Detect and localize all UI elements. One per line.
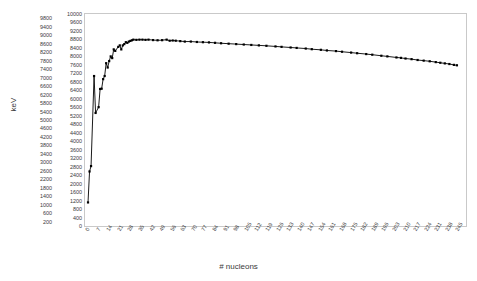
data-point [243, 43, 245, 45]
data-point [250, 44, 252, 46]
data-point [102, 78, 104, 80]
x-tick-label: 7 [95, 226, 102, 232]
data-point [258, 44, 260, 46]
data-point [380, 55, 382, 57]
data-point [417, 59, 419, 61]
data-point [87, 201, 89, 203]
data-point [98, 106, 100, 108]
data-point [190, 40, 192, 42]
data-point [202, 41, 204, 43]
data-point [453, 64, 455, 66]
data-point [175, 40, 177, 42]
data-point [235, 43, 237, 45]
y-tick-label: 4400 [70, 130, 82, 136]
y-tick-label: 2800 [70, 164, 82, 170]
data-point [214, 42, 216, 44]
data-point [395, 56, 397, 58]
data-point [386, 55, 388, 57]
data-point [400, 57, 402, 59]
data-point [119, 44, 121, 46]
data-point [280, 46, 282, 48]
data-point [305, 47, 307, 49]
data-point [220, 42, 222, 44]
data-point [208, 41, 210, 43]
y-tick-label: 7200 [70, 70, 82, 76]
data-point [356, 52, 358, 54]
data-point [90, 165, 92, 167]
y-tick-label: 8800 [70, 36, 82, 42]
data-point [108, 60, 110, 62]
y-axis-tick-labels-outer: 9800940090008600820078007400700066006200… [18, 0, 52, 281]
data-point [107, 66, 109, 68]
data-point [105, 62, 107, 64]
data-point [172, 39, 174, 41]
data-point [296, 47, 298, 49]
data-markers [87, 39, 458, 204]
y-tick-label: 400 [73, 215, 82, 221]
data-point [114, 50, 116, 52]
data-line [88, 40, 457, 203]
data-point [135, 39, 137, 41]
y-tick-label: 4800 [70, 121, 82, 127]
data-point [265, 45, 267, 47]
y-tick-label: 0 [79, 223, 82, 229]
y-tick-label: 6000 [70, 96, 82, 102]
data-point [156, 39, 158, 41]
binding-energy-curve [85, 14, 466, 226]
data-point [138, 39, 140, 41]
data-point [423, 60, 425, 62]
y-tick-label: 4000 [70, 138, 82, 144]
data-point [111, 57, 113, 59]
y-tick-label: 3600 [70, 147, 82, 153]
data-point [123, 43, 125, 45]
plot-area [84, 13, 467, 227]
x-tick-label: 0 [84, 226, 91, 232]
data-point [439, 62, 441, 64]
data-point [410, 58, 412, 60]
data-point [435, 61, 437, 63]
y-tick-label: 5200 [70, 113, 82, 119]
data-point [274, 45, 276, 47]
data-point [456, 64, 458, 66]
data-point [88, 170, 90, 172]
binding-energy-chart: keV 980094009000860082007800740070006600… [0, 0, 477, 281]
data-point [365, 53, 367, 55]
y-tick-label: 2000 [70, 181, 82, 187]
data-point [120, 48, 122, 50]
data-point [290, 46, 292, 48]
x-axis-title: # nucleons [0, 262, 477, 271]
y-tick-label: 8400 [70, 45, 82, 51]
data-point [371, 54, 373, 56]
data-point [184, 40, 186, 42]
y-tick-label: 6800 [70, 79, 82, 85]
y-tick-label: 7600 [70, 62, 82, 68]
data-point [228, 43, 230, 45]
data-point [335, 50, 337, 52]
data-point [311, 48, 313, 50]
data-point [169, 40, 171, 42]
y-tick-label: 800 [73, 206, 82, 212]
data-point [166, 39, 168, 41]
y-tick-label: 3200 [70, 155, 82, 161]
data-point [152, 39, 154, 41]
data-point [320, 49, 322, 51]
y-tick-label: 6400 [70, 87, 82, 93]
data-point [132, 39, 134, 41]
data-point [350, 51, 352, 53]
y-tick-label: 2400 [70, 172, 82, 178]
data-point [404, 57, 406, 59]
data-point [429, 60, 431, 62]
y-tick-label: 9600 [70, 19, 82, 25]
data-point [94, 112, 96, 114]
data-point [444, 62, 446, 64]
data-point [161, 39, 163, 41]
y-tick-label: 5600 [70, 104, 82, 110]
data-point [179, 40, 181, 42]
y-tick-label: 1600 [70, 189, 82, 195]
y-tick-label: 8000 [70, 53, 82, 59]
y-axis-title: keV [9, 98, 18, 112]
y-tick-label: 10000 [67, 11, 82, 17]
data-point [93, 75, 95, 77]
data-point [104, 75, 106, 77]
y-axis-tick-labels-inner: 1000096009200880084008000760072006800640… [48, 0, 82, 281]
